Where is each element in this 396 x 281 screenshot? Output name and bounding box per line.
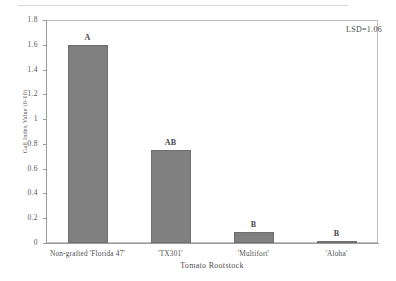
- y-axis-tick-mark: [43, 193, 46, 194]
- bar: [68, 45, 108, 243]
- bar: [234, 232, 274, 243]
- y-axis-tick-mark: [43, 119, 46, 120]
- y-axis-title: Gall Index Value (0-10): [21, 52, 28, 192]
- y-axis-tick-label: 0.2: [12, 214, 38, 222]
- chart-figure: 00.20.40.60.811.21.41.61.8 Gall Index Va…: [0, 0, 396, 281]
- y-axis-tick-mark: [43, 70, 46, 71]
- y-axis-tick-mark: [43, 169, 46, 170]
- y-axis-tick-mark: [43, 243, 46, 244]
- x-axis-line: [46, 243, 379, 244]
- x-axis-title: Tomato Rootstock: [46, 261, 378, 271]
- y-axis-tick-label: 1.6: [12, 41, 38, 49]
- y-axis-tick-label: 1.8: [12, 16, 38, 24]
- y-axis-line: [46, 20, 47, 244]
- y-axis-tick-mark: [43, 94, 46, 95]
- y-axis-tick-mark: [43, 45, 46, 46]
- y-axis-tick-mark: [43, 20, 46, 21]
- bar: [151, 150, 191, 243]
- bar: [317, 241, 357, 243]
- bar-significance-letter: B: [317, 229, 357, 238]
- bar-significance-letter: AB: [151, 138, 191, 147]
- y-axis-tick-label: 0: [12, 239, 38, 247]
- lsd-annotation: LSD=1.06: [346, 25, 382, 35]
- bar-significance-letter: A: [68, 33, 108, 42]
- y-axis-tick-mark: [43, 218, 46, 219]
- scan-artifact-line: [18, 5, 348, 6]
- x-axis-tick-label: 'Aloha': [282, 249, 392, 258]
- y-axis-tick-mark: [43, 144, 46, 145]
- bar-significance-letter: B: [234, 220, 274, 229]
